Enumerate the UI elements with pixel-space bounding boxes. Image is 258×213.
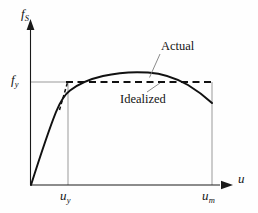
yield-force-label: fy (11, 73, 18, 86)
max-displacement-label-base: u (202, 188, 209, 203)
idealized-leader-line (147, 83, 160, 92)
yield-displacement-label: uy (60, 189, 70, 202)
figure-canvas (0, 0, 258, 213)
actual-curve (31, 72, 212, 185)
x-axis-arrowhead (221, 181, 233, 190)
y-axis-label-subscript: S (25, 13, 29, 23)
x-axis-label: u (238, 172, 245, 185)
yield-displacement-label-subscript: y (67, 195, 71, 205)
idealized-annotation-label: Idealized (120, 93, 166, 106)
actual-annotation-label: Actual (161, 40, 194, 53)
yield-displacement-label-base: u (60, 188, 67, 203)
max-displacement-label-subscript: m (209, 195, 215, 205)
y-axis-label: fS (21, 7, 29, 20)
yield-force-label-subscript: y (15, 79, 19, 89)
force-deformation-figure: fS fy uy um u Actual Idealized (0, 0, 258, 213)
max-displacement-label: um (202, 189, 215, 202)
